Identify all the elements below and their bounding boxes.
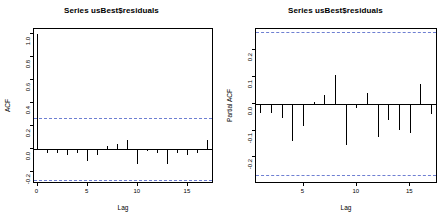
acf-y-tick-label: 0.4: [25, 101, 31, 119]
pacf-bar: [388, 104, 389, 120]
pacf-bar: [292, 104, 293, 142]
acf-confidence-band-lower: [34, 180, 212, 181]
acf-x-axis-label: Lag: [33, 204, 213, 211]
pacf-bar: [356, 104, 357, 108]
pacf-bar: [420, 84, 421, 104]
pacf-x-tick-label: 10: [346, 188, 366, 194]
pacf-x-tick: [409, 183, 410, 186]
acf-y-tick-label: 0.8: [25, 55, 31, 73]
pacf-bar: [431, 104, 432, 114]
acf-panel: Series usBest$residuals ACF Lag 051015-0…: [0, 0, 223, 222]
pacf-y-tick-label: -0.1: [247, 129, 253, 147]
acf-bar: [187, 149, 188, 155]
acf-x-tick: [137, 183, 138, 186]
pacf-confidence-band-upper: [256, 32, 436, 33]
pacf-bar: [335, 75, 336, 104]
acf-bar: [77, 149, 78, 152]
pacf-bar: [260, 104, 261, 113]
pacf-bar: [314, 102, 315, 104]
acf-bar: [197, 149, 198, 153]
acf-bar: [127, 140, 128, 149]
acf-x-tick: [87, 183, 88, 186]
pacf-x-tick-label: 15: [399, 188, 419, 194]
acf-x-tick-label: 5: [77, 188, 97, 194]
pacf-bar: [324, 95, 325, 104]
pacf-plot-title: Series usBest$residuals: [224, 6, 447, 15]
pacf-bar: [271, 104, 272, 114]
acf-x-tick: [187, 183, 188, 186]
acf-bar: [47, 149, 48, 153]
pacf-bar: [378, 104, 379, 137]
acf-bar: [157, 149, 158, 152]
pacf-x-tick: [303, 183, 304, 186]
acf-bar: [177, 149, 178, 153]
acf-pacf-figure: Series usBest$residuals ACF Lag 051015-0…: [0, 0, 447, 222]
acf-x-tick-label: 15: [177, 188, 197, 194]
pacf-plot-area: [255, 28, 437, 183]
acf-plot-area: [33, 28, 213, 183]
acf-y-tick-label: 0.0: [25, 147, 31, 165]
acf-zero-line: [34, 149, 212, 150]
acf-bar: [57, 149, 58, 153]
acf-bar: [207, 140, 208, 149]
acf-y-tick-label: 0.6: [25, 78, 31, 96]
pacf-bar: [410, 104, 411, 133]
pacf-bar: [399, 104, 400, 130]
pacf-bar: [303, 104, 304, 126]
pacf-y-tick-label: -0.2: [247, 155, 253, 173]
acf-y-tick-label: 0.2: [25, 124, 31, 142]
acf-bar: [137, 149, 138, 163]
pacf-y-tick-label: 0.1: [247, 75, 253, 93]
pacf-bar: [346, 104, 347, 145]
acf-bar: [107, 146, 108, 149]
acf-bar: [167, 149, 168, 164]
acf-plot-title: Series usBest$residuals: [0, 6, 223, 15]
acf-bar: [67, 149, 68, 155]
pacf-y-tick-label: 0.2: [247, 48, 253, 66]
acf-y-axis-label: ACF: [4, 85, 11, 125]
acf-bar: [147, 149, 148, 151]
acf-y-tick-label: 1.0: [25, 32, 31, 50]
acf-bar: [37, 34, 38, 150]
pacf-y-axis-label: Partial ACF: [226, 85, 233, 125]
pacf-bar: [367, 93, 368, 104]
pacf-y-tick-label: 0.0: [247, 102, 253, 120]
acf-x-tick: [37, 183, 38, 186]
pacf-x-axis-label: Lag: [255, 204, 437, 211]
acf-x-tick-label: 10: [127, 188, 147, 194]
pacf-panel: Series usBest$residuals Partial ACF Lag …: [224, 0, 447, 222]
pacf-x-tick-label: 5: [293, 188, 313, 194]
acf-bar: [117, 144, 118, 149]
acf-y-tick-label: -0.2: [25, 170, 31, 188]
acf-x-tick-label: 0: [27, 188, 47, 194]
acf-confidence-band-upper: [34, 118, 212, 119]
acf-bar: [97, 149, 98, 155]
acf-bar: [87, 149, 88, 161]
pacf-x-tick: [356, 183, 357, 186]
pacf-confidence-band-lower: [256, 175, 436, 176]
pacf-bar: [282, 104, 283, 118]
